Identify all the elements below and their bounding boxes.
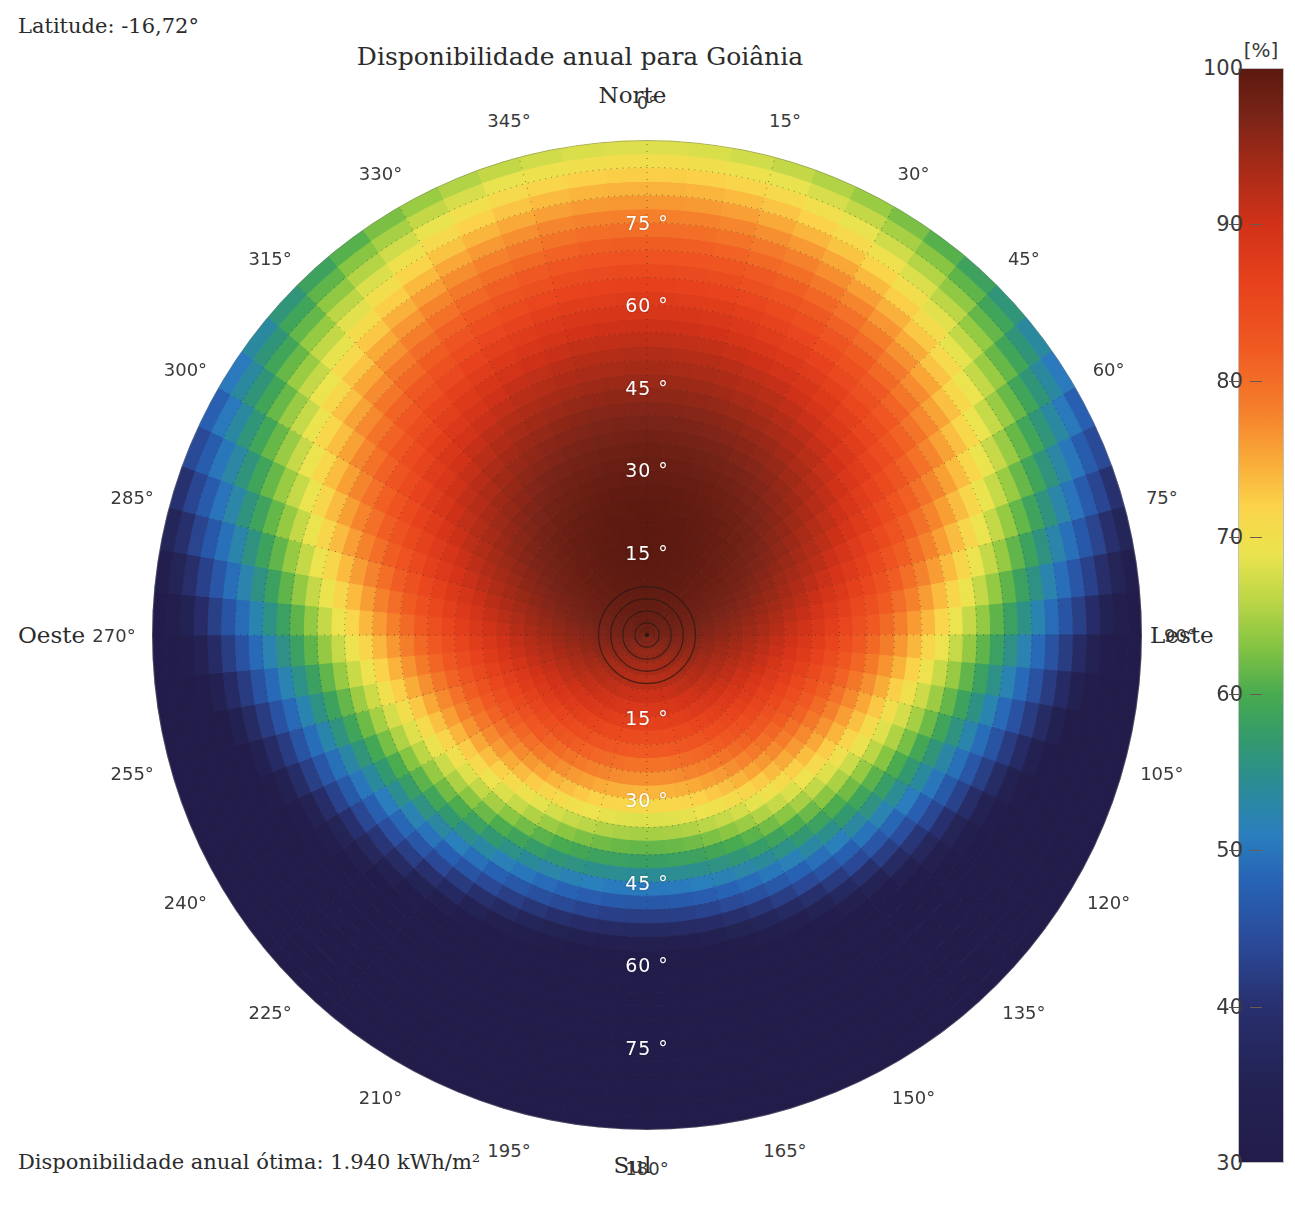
azimuth-tick-0: 0° xyxy=(637,92,657,113)
azimuth-tick-315: 315° xyxy=(248,248,291,269)
azimuth-tick-135: 135° xyxy=(1002,1001,1045,1022)
azimuth-tick-30: 30° xyxy=(898,163,930,184)
tilt-tick-north-30: 30 ° xyxy=(625,459,669,481)
colorbar-dash-70 xyxy=(1229,537,1239,538)
azimuth-tick-255: 255° xyxy=(110,762,153,783)
azimuth-tick-270: 270° xyxy=(92,625,135,646)
colorbar xyxy=(1238,68,1284,1163)
azimuth-tick-105: 105° xyxy=(1140,762,1183,783)
azimuth-tick-45: 45° xyxy=(1008,248,1040,269)
azimuth-tick-330: 330° xyxy=(359,163,402,184)
colorbar-dash-60 xyxy=(1229,694,1239,695)
azimuth-tick-300: 300° xyxy=(164,358,207,379)
colorbar-unit-label: [%] xyxy=(1238,38,1284,62)
azimuth-tick-60: 60° xyxy=(1093,358,1125,379)
azimuth-tick-240: 240° xyxy=(164,891,207,912)
cardinal-label-north: Norte xyxy=(0,82,1265,108)
tilt-tick-south-45: 45 ° xyxy=(625,872,669,894)
tilt-tick-north-45: 45 ° xyxy=(625,377,669,399)
colorbar-dash-50 xyxy=(1229,850,1239,851)
colorbar-inner-dash-40 xyxy=(1250,1007,1262,1008)
cardinal-label-west: Oeste xyxy=(18,622,85,648)
colorbar-inner-dash-70 xyxy=(1250,537,1262,538)
azimuth-tick-180: 180° xyxy=(625,1158,668,1179)
tilt-tick-south-15: 15 ° xyxy=(625,707,669,729)
tilt-tick-south-30: 30 ° xyxy=(625,789,669,811)
azimuth-tick-225: 225° xyxy=(248,1001,291,1022)
colorbar-dash-80 xyxy=(1229,381,1239,382)
polar-heatmap-plot xyxy=(152,140,1142,1130)
colorbar-inner-dash-60 xyxy=(1250,694,1262,695)
azimuth-tick-285: 285° xyxy=(110,487,153,508)
azimuth-tick-90: 90° xyxy=(1164,625,1196,646)
polar-heatmap-canvas xyxy=(152,140,1142,1130)
colorbar-dash-40 xyxy=(1229,1007,1239,1008)
chart-stage: Latitude: -16,72° Disponibilidade anual … xyxy=(0,0,1295,1207)
azimuth-tick-345: 345° xyxy=(487,110,530,131)
colorbar-gradient xyxy=(1238,68,1284,1163)
colorbar-tick-30: 30 xyxy=(1216,1151,1243,1175)
colorbar-tick-100: 100 xyxy=(1203,56,1243,80)
tilt-tick-north-75: 75 ° xyxy=(625,212,669,234)
azimuth-tick-210: 210° xyxy=(359,1086,402,1107)
latitude-label: Latitude: -16,72° xyxy=(18,14,199,38)
azimuth-tick-150: 150° xyxy=(892,1086,935,1107)
optimum-caption: Disponibilidade anual ótima: 1.940 kWh/m… xyxy=(18,1150,480,1174)
tilt-tick-south-60: 60 ° xyxy=(625,954,669,976)
tilt-tick-north-60: 60 ° xyxy=(625,294,669,316)
colorbar-dash-90 xyxy=(1229,224,1239,225)
azimuth-tick-15: 15° xyxy=(769,110,801,131)
tilt-tick-north-15: 15 ° xyxy=(625,542,669,564)
colorbar-inner-dash-80 xyxy=(1250,381,1262,382)
azimuth-tick-165: 165° xyxy=(763,1139,806,1160)
azimuth-tick-120: 120° xyxy=(1087,891,1130,912)
colorbar-inner-dash-50 xyxy=(1250,850,1262,851)
tilt-tick-south-75: 75 ° xyxy=(625,1037,669,1059)
azimuth-tick-195: 195° xyxy=(487,1139,530,1160)
azimuth-tick-75: 75° xyxy=(1146,487,1178,508)
colorbar-inner-dash-90 xyxy=(1250,224,1262,225)
page-title: Disponibilidade anual para Goiânia xyxy=(0,42,1160,71)
